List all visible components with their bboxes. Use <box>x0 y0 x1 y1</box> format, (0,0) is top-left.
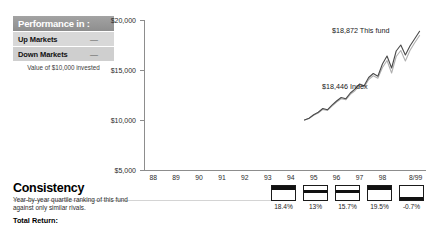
x-axis-tick-label: 90 <box>195 174 203 181</box>
quartile-return-value: 18.4% <box>271 203 296 210</box>
quartile-cell: 19.5% <box>367 185 392 210</box>
series-line-this-fund <box>304 31 419 120</box>
annotation-index: $18,446 Index <box>322 82 368 91</box>
quartile-box <box>335 185 360 201</box>
performance-panel: Performance in : Up Markets — Down Marke… <box>13 16 114 71</box>
quartile-cell: 18.4% <box>271 185 296 210</box>
performance-row-value: — <box>90 50 108 59</box>
x-axis-tick-label: 95 <box>310 174 318 181</box>
quartile-cell: 15.7% <box>335 185 360 210</box>
quartile-return-value: 19.5% <box>367 203 392 210</box>
x-axis-tick-label: 93 <box>264 174 272 181</box>
x-axis-tick-label: 91 <box>218 174 226 181</box>
performance-panel-header: Performance in : <box>13 16 114 31</box>
quartile-box <box>271 185 296 201</box>
quartile-fill <box>368 186 391 190</box>
performance-row-label: Up Markets <box>18 35 57 44</box>
quartile-box <box>303 185 328 201</box>
x-axis-tick-label: 97 <box>356 174 364 181</box>
quartile-fill <box>304 190 327 194</box>
performance-row-down-markets[interactable]: Down Markets — <box>13 46 114 61</box>
x-axis-tick-label: 96 <box>333 174 341 181</box>
annotation-this-fund: $18,872 This fund <box>332 26 389 35</box>
x-axis-tick-label: 88 <box>149 174 157 181</box>
performance-row-value: — <box>90 35 108 44</box>
total-return-label: Total Return: <box>13 216 143 225</box>
x-axis-tick-label: 94 <box>287 174 295 181</box>
quartile-fill <box>336 190 359 194</box>
performance-panel-title: Performance in : <box>18 18 90 29</box>
quartile-fill <box>272 186 295 190</box>
quartile-fill <box>400 197 423 201</box>
x-axis-tick-label: 89 <box>172 174 180 181</box>
x-axis-tick-label: 98 <box>379 174 387 181</box>
x-axis-tick-label: 92 <box>241 174 249 181</box>
quartile-box <box>399 185 424 201</box>
quartile-box <box>367 185 392 201</box>
consistency-section: Consistency Year-by-year quartile rankin… <box>13 182 143 225</box>
consistency-title: Consistency <box>13 182 143 195</box>
chart-series-svg <box>110 14 428 174</box>
quartile-return-value: 15.7% <box>335 203 360 210</box>
performance-row-up-markets[interactable]: Up Markets — <box>13 31 114 46</box>
performance-row-label: Down Markets <box>18 50 68 59</box>
consistency-description: Year-by-year quartile ranking of this fu… <box>13 196 135 212</box>
growth-of-10k-chart: $5,000$10,000$15,000$20,000 888990919293… <box>110 14 428 174</box>
quartile-return-value: -0.7% <box>399 203 424 210</box>
performance-panel-caption: Value of $10,000 invested <box>13 64 114 71</box>
quartile-cell: -0.7% <box>399 185 424 210</box>
x-axis-tick-label: 8/99 <box>409 174 422 181</box>
quartile-cell: 13% <box>303 185 328 210</box>
quartile-return-value: 13% <box>303 203 328 210</box>
